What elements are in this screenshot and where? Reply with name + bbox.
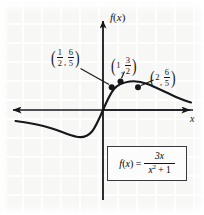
formula-denominator: x2 + 1 <box>144 164 174 175</box>
function-graph-figure: f(x) x ( 1 2 , 6 5 ) ( 1 , 3 2 <box>0 0 204 215</box>
fraction-six-fifths: 6 5 <box>68 48 74 67</box>
formula-numerator: 3x <box>144 152 174 164</box>
paren-close: ) <box>132 58 137 74</box>
x-axis-label: x <box>190 114 194 124</box>
fraction-six-fifths: 6 5 <box>164 68 170 87</box>
fraction-three-halves: 3 2 <box>125 56 131 75</box>
comma: , <box>121 66 125 76</box>
comma: , <box>160 78 164 88</box>
leader-line-p1 <box>81 69 110 85</box>
comma: , <box>64 58 68 68</box>
point-label-half: ( 1 2 , 6 5 ) <box>50 48 81 67</box>
paren-open: ( <box>111 58 116 74</box>
formula-left-side: f(x) = <box>119 158 141 169</box>
paren-close: ) <box>75 50 80 66</box>
paren-open: ( <box>150 70 155 86</box>
fraction-one-half: 1 2 <box>57 48 63 67</box>
point-marker-one <box>118 79 124 85</box>
paren-open: ( <box>51 50 56 66</box>
point-label-two: ( 2 , 6 5 ) <box>149 68 177 87</box>
point-marker-half <box>109 84 115 90</box>
paren-close: ) <box>171 70 176 86</box>
formula-box: f(x) = 3x x2 + 1 <box>107 146 187 181</box>
plot-canvas <box>0 0 204 215</box>
y-axis-label: f(x) <box>110 12 125 23</box>
point-marker-two <box>135 84 141 90</box>
formula-fraction: 3x x2 + 1 <box>144 152 174 175</box>
point-label-one: ( 1 , 3 2 ) <box>110 56 138 75</box>
